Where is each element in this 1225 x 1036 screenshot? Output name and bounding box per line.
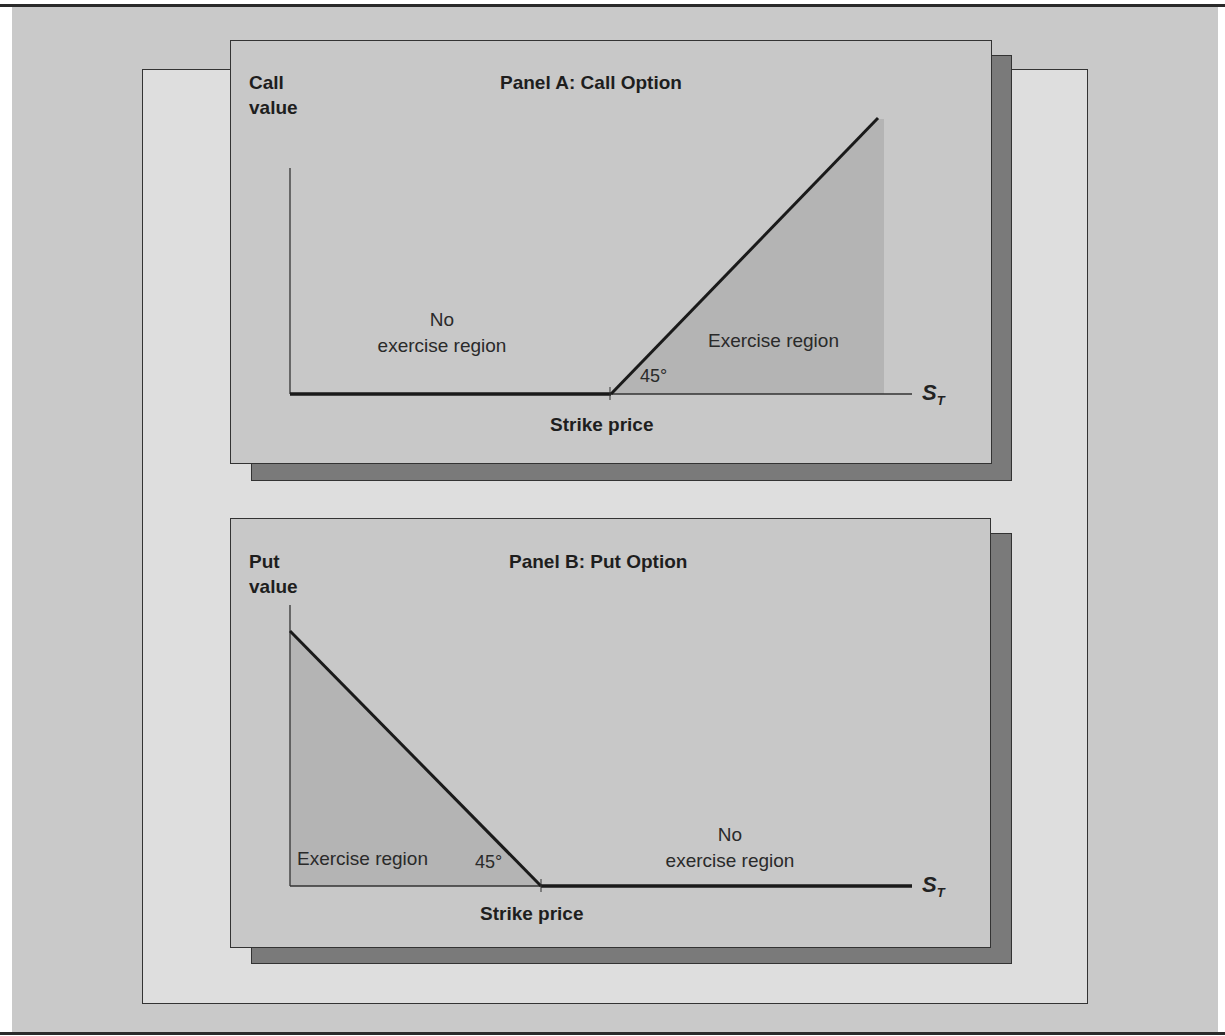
panel-b-no-exercise-label-1: No [655, 824, 805, 846]
panel-b-exercise-label: Exercise region [297, 848, 428, 870]
panel-b-angle-label: 45° [475, 852, 502, 873]
panel-b-y-label-2: value [249, 576, 298, 598]
panel-b-title: Panel B: Put Option [509, 551, 687, 573]
s-symbol: S [922, 872, 937, 897]
panel-b-strike-price-label: Strike price [480, 903, 584, 925]
panel-b-x-axis-label: ST [922, 872, 945, 900]
panel-b-plot [0, 0, 1225, 1036]
t-subscript: T [937, 885, 945, 900]
panel-b-no-exercise-label-2: exercise region [655, 850, 805, 872]
panel-b-y-label-1: Put [249, 551, 280, 573]
